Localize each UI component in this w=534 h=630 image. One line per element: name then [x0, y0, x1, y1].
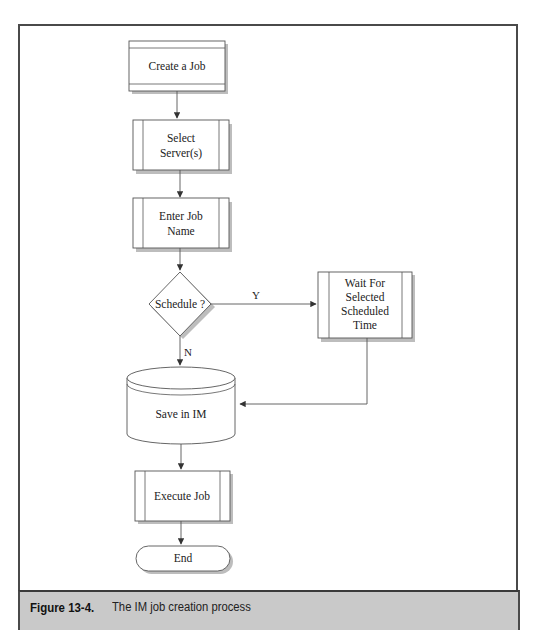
node-label: Save in IM [155, 408, 206, 420]
node-label: Schedule ? [155, 298, 205, 310]
node-label: Selected [346, 291, 385, 303]
node-enter-job-name: Enter Job Name [133, 198, 232, 252]
figure-caption-bar: Figure 13-4. The IM job creation process [18, 590, 520, 630]
node-label: Name [167, 225, 194, 237]
node-execute-job: Execute Job [135, 471, 233, 524]
node-create-job: Create a Job [129, 41, 228, 94]
node-label: Enter Job [159, 210, 203, 222]
node-save-in-im: Save in IM [127, 367, 235, 444]
node-wait-for-time: Wait For Selected Scheduled Time [318, 272, 415, 342]
node-label: Execute Job [154, 490, 210, 502]
node-end: End [136, 546, 233, 574]
node-label: Server(s) [160, 147, 202, 160]
figure-caption: The IM job creation process [112, 600, 251, 614]
node-label: End [174, 552, 193, 564]
node-label: Scheduled [341, 305, 389, 317]
flowchart: Create a Job Select Server(s) Enter Job … [0, 0, 534, 630]
node-label: Time [353, 319, 377, 331]
node-label: Select [167, 132, 196, 144]
node-schedule-decision: Schedule ? [149, 272, 215, 339]
node-select-servers: Select Server(s) [133, 120, 232, 174]
node-label: Create a Job [149, 60, 206, 72]
edge-wait-to-save [240, 338, 367, 404]
figure-number: Figure 13-4. [30, 600, 94, 615]
node-label: Wait For [345, 277, 385, 289]
no-label: N [184, 346, 192, 358]
yes-label: Y [252, 289, 260, 301]
